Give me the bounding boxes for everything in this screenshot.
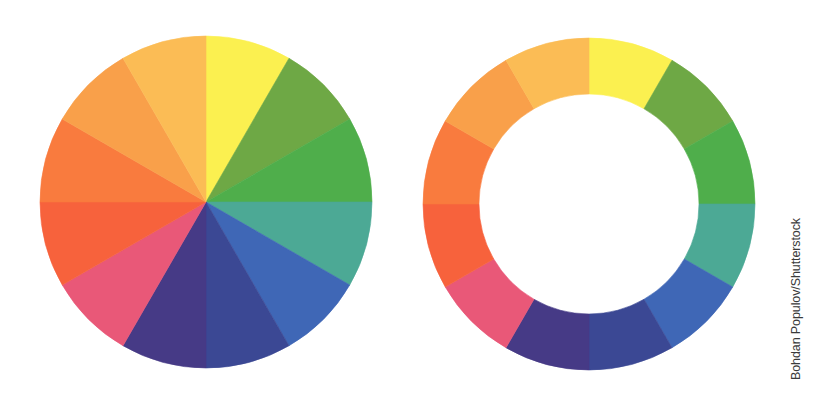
ring-color-wheel bbox=[423, 38, 755, 370]
color-wheels-figure bbox=[0, 0, 826, 411]
solid-color-wheel bbox=[40, 36, 372, 368]
photo-credit: Bohdan Populov/Shutterstock bbox=[789, 218, 803, 380]
